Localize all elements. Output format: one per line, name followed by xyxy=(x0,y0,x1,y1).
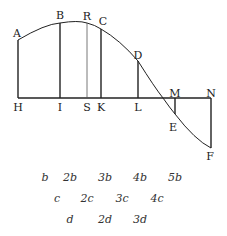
point-labels: ABRCDHISKLMNEF xyxy=(12,9,216,163)
point-label-i: I xyxy=(58,101,62,114)
point-label-a: A xyxy=(12,27,22,40)
series-term: 3d xyxy=(133,213,147,226)
point-label-b: B xyxy=(56,9,64,22)
point-label-e: E xyxy=(169,121,177,134)
series-term: 5b xyxy=(168,171,182,184)
series-term: 4c xyxy=(149,192,163,205)
point-label-f: F xyxy=(206,150,214,163)
diagram-lines xyxy=(18,22,211,149)
series-term: 2d xyxy=(97,213,112,226)
curve xyxy=(18,22,211,149)
series-term: d xyxy=(66,213,73,226)
point-label-s: S xyxy=(83,101,91,114)
point-label-c: C xyxy=(99,15,107,28)
point-label-n: N xyxy=(206,87,216,100)
series-term: 2c xyxy=(79,192,93,205)
series-table: b2b3b4b5bc2c3c4cd2d3d xyxy=(41,171,182,226)
series-term: 3c xyxy=(115,192,128,205)
point-label-k: K xyxy=(97,101,106,114)
series-term: 2b xyxy=(62,171,77,184)
series-term: b xyxy=(41,171,48,184)
series-term: c xyxy=(54,192,60,205)
geometric-diagram: ABRCDHISKLMNEF b2b3b4b5bc2c3c4cd2d3d xyxy=(0,0,227,236)
point-label-d: D xyxy=(134,49,143,62)
point-label-h: H xyxy=(13,101,23,114)
series-term: 4b xyxy=(132,171,147,184)
point-label-r: R xyxy=(83,10,92,23)
point-label-l: L xyxy=(134,101,142,114)
series-term: 3b xyxy=(98,171,112,184)
point-label-m: M xyxy=(169,87,180,100)
